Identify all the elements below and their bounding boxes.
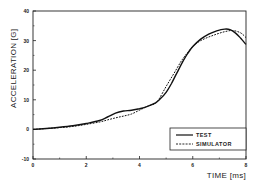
legend: TEST SIMULATOR xyxy=(170,128,246,150)
acceleration-chart: -10010203040 02468 ACCELERATION [G] TIME… xyxy=(0,0,261,188)
x-tick-label: 0 xyxy=(32,162,35,168)
x-tick-label: 2 xyxy=(85,162,88,168)
y-tick-label: 10 xyxy=(23,97,29,103)
y-tick-label: -10 xyxy=(22,156,29,162)
y-tick-label: 30 xyxy=(23,38,29,44)
y-axis-title: ACCELERATION [G] xyxy=(9,29,18,108)
x-axis-title: TIME [ms] xyxy=(207,171,246,180)
chart-background xyxy=(0,0,261,188)
y-tick-label: 20 xyxy=(23,67,29,73)
x-tick-label: 4 xyxy=(138,162,141,168)
y-tick-label: 40 xyxy=(23,8,29,14)
y-tick-label: 0 xyxy=(26,126,29,132)
x-tick-label: 6 xyxy=(191,162,194,168)
legend-label-test: TEST xyxy=(196,132,212,138)
x-tick-label: 8 xyxy=(245,162,248,168)
legend-label-simulator: SIMULATOR xyxy=(196,141,232,147)
